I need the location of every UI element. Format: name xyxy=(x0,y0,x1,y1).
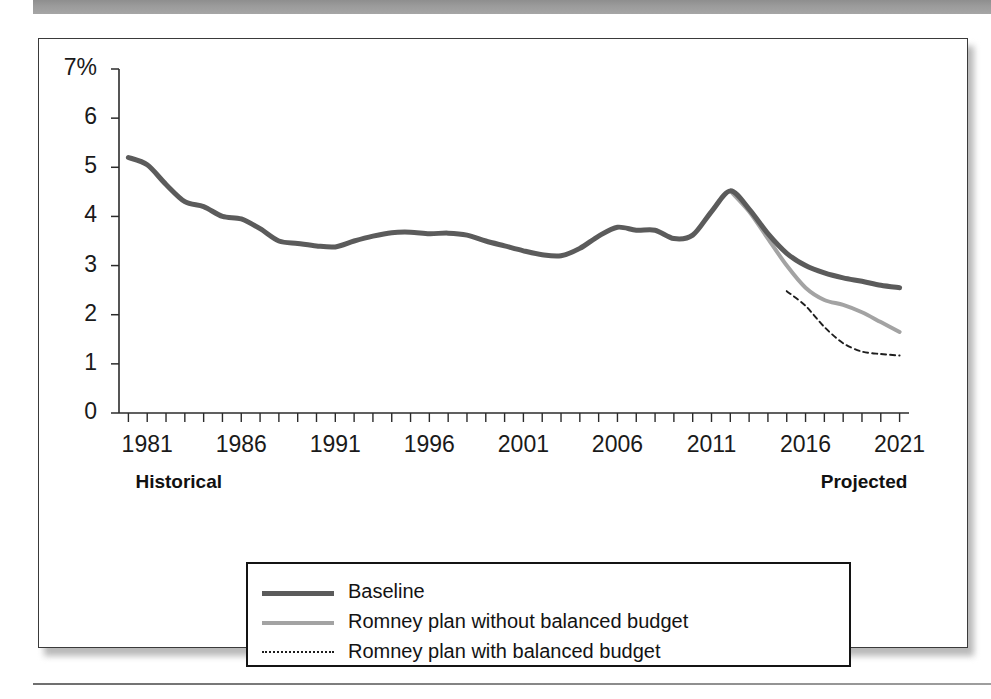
chart-legend: BaselineRomney plan without balanced bud… xyxy=(246,562,851,667)
historical-era-label: Historical xyxy=(135,471,222,493)
y-axis-tick-label: 6 xyxy=(51,103,97,130)
x-axis-tick-label: 2006 xyxy=(572,431,662,458)
y-axis-tick-label: 7% xyxy=(51,54,97,81)
series-line xyxy=(730,191,899,332)
x-axis-tick-label: 1996 xyxy=(384,431,474,458)
x-axis-tick-label: 2021 xyxy=(855,431,945,458)
legend-item-label: Romney plan with balanced budget xyxy=(348,640,660,663)
x-axis-tick-label: 1991 xyxy=(290,431,380,458)
x-axis-tick-label: 1981 xyxy=(102,431,192,458)
projected-era-label: Projected xyxy=(821,471,908,493)
y-axis-tick-label: 4 xyxy=(51,201,97,228)
y-axis-tick-label: 5 xyxy=(51,152,97,179)
y-axis-tick-label: 1 xyxy=(51,349,97,376)
legend-item[interactable]: Romney plan with balanced budget xyxy=(262,636,660,666)
legend-item[interactable]: Baseline xyxy=(262,576,425,606)
legend-line-swatch xyxy=(262,611,334,631)
y-axis-tick-label: 3 xyxy=(51,251,97,278)
legend-item[interactable]: Romney plan without balanced budget xyxy=(262,606,688,636)
bottom-divider-rule xyxy=(33,683,991,685)
y-axis-tick-label: 0 xyxy=(51,398,97,425)
chart-series xyxy=(128,157,899,355)
legend-line-swatch xyxy=(262,641,334,661)
chart-figure: 7%6543210 198119861991199620012006201120… xyxy=(38,38,968,648)
x-axis-tick-label: 2011 xyxy=(667,431,757,458)
legend-line-swatch xyxy=(262,581,334,601)
legend-item-label: Romney plan without balanced budget xyxy=(348,610,688,633)
x-axis-tick-label: 2001 xyxy=(478,431,568,458)
series-line xyxy=(128,157,899,287)
x-axis-tick-label: 1986 xyxy=(196,431,286,458)
x-axis-tick-label: 2016 xyxy=(761,431,851,458)
y-axis-tick-label: 2 xyxy=(51,300,97,327)
line-chart-plot xyxy=(39,39,966,646)
top-divider-bar xyxy=(33,0,991,14)
legend-item-label: Baseline xyxy=(348,580,425,603)
